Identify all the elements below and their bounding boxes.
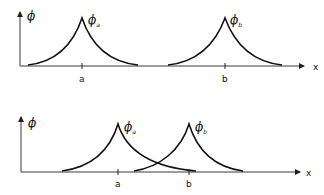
top-y-axis-label: ϕ xyxy=(27,9,35,23)
bottom-peak-b-label: ϕb xyxy=(195,120,207,135)
bottom-position-b: b xyxy=(186,179,192,189)
diagram-canvas: ϕ x ϕa ϕb a b ϕ x ϕa ϕb a b xyxy=(0,0,324,195)
bottom-position-a: a xyxy=(115,179,121,189)
top-curve-phi-a xyxy=(28,18,138,65)
top-position-a: a xyxy=(79,74,85,84)
bottom-panel: ϕ x ϕa ϕb a b xyxy=(21,116,312,189)
top-curve-phi-b xyxy=(168,18,282,65)
top-panel: ϕ x ϕa ϕb a b xyxy=(20,9,319,84)
top-peak-b-label: ϕb xyxy=(230,13,242,28)
bottom-y-axis-label: ϕ xyxy=(28,116,36,130)
top-x-axis-label: x xyxy=(313,62,319,72)
bottom-peak-a-label: ϕa xyxy=(124,120,136,135)
top-peak-a-label: ϕa xyxy=(88,13,100,28)
bottom-x-axis-label: x xyxy=(306,168,312,178)
top-position-b: b xyxy=(222,74,228,84)
bottom-curve-phi-b xyxy=(134,124,243,171)
